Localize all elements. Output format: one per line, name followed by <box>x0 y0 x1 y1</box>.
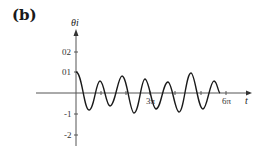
y-tick-label: -2 <box>64 130 72 140</box>
y-tick-label: 02 <box>62 47 71 57</box>
y-tick-label: -1 <box>64 109 72 119</box>
y-tick-label: 01 <box>62 67 71 77</box>
y-axis-arrow-icon <box>74 29 79 36</box>
x-axis-label: t <box>245 95 248 106</box>
x-tick-label: 6π <box>222 96 232 106</box>
chart: 02 01 -1 -2 3π 6π t θi <box>0 0 262 154</box>
y-axis-label: θi <box>71 17 79 28</box>
